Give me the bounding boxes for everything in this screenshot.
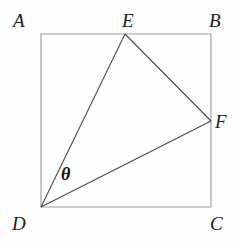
- vertex-label-b: B: [209, 11, 221, 30]
- angle-label-theta: θ: [61, 165, 70, 183]
- diagram-canvas: [0, 0, 240, 245]
- vertex-label-c: C: [210, 214, 223, 233]
- vertex-label-a: A: [13, 11, 25, 30]
- geometry-figure: A B C D E F θ: [0, 0, 240, 245]
- vertex-label-f: F: [215, 112, 227, 131]
- vertex-label-d: D: [12, 214, 26, 233]
- segment-de: [41, 34, 125, 207]
- segment-ef: [125, 34, 211, 121]
- vertex-label-e: E: [122, 11, 134, 30]
